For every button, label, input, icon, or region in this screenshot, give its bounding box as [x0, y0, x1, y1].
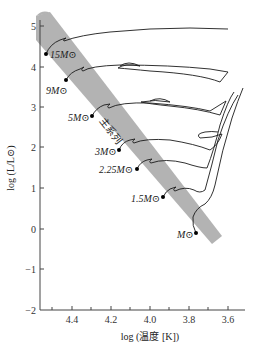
- svg-text:4.2: 4.2: [105, 314, 118, 325]
- svg-text:−2: −2: [25, 305, 36, 316]
- main-sequence-band: [36, 12, 222, 244]
- label-3msun: 3M⊙: [94, 146, 117, 157]
- svg-text:5: 5: [31, 21, 36, 32]
- svg-text:−1: −1: [25, 264, 36, 275]
- label-15msun: 15M⊙: [50, 49, 77, 60]
- label-1msun: M⊙: [176, 229, 194, 240]
- svg-text:3: 3: [31, 102, 36, 113]
- x-tick-labels: 4.4 4.2 4.0 3.8 3.6: [66, 314, 235, 325]
- svg-text:3.8: 3.8: [183, 314, 196, 325]
- svg-text:4.0: 4.0: [144, 314, 157, 325]
- hr-diagram: 5 4 3 2 1 0 −1 −2 4.4 4.2 4.0 3.8 3.6 lo…: [0, 0, 259, 348]
- svg-text:2: 2: [31, 142, 36, 153]
- label-2_25msun: 2.25M⊙: [99, 164, 133, 175]
- svg-text:1: 1: [31, 183, 36, 194]
- svg-text:4: 4: [31, 62, 36, 73]
- x-axis-title: log (温度 [K]): [121, 330, 179, 343]
- y-tick-labels: 5 4 3 2 1 0 −1 −2: [25, 21, 36, 316]
- y-axis-title: log (L/L⊙): [5, 145, 17, 190]
- svg-text:0: 0: [31, 224, 36, 235]
- svg-text:4.4: 4.4: [66, 314, 79, 325]
- svg-text:3.6: 3.6: [222, 314, 235, 325]
- label-5msun: 5M⊙: [68, 112, 90, 123]
- zams-points: [44, 52, 198, 235]
- mass-labels: 15M⊙ 9M⊙ 5M⊙ 3M⊙ 2.25M⊙ 1.5M⊙ M⊙: [46, 49, 194, 240]
- label-1_5msun: 1.5M⊙: [131, 193, 160, 204]
- label-9msun: 9M⊙: [46, 85, 68, 96]
